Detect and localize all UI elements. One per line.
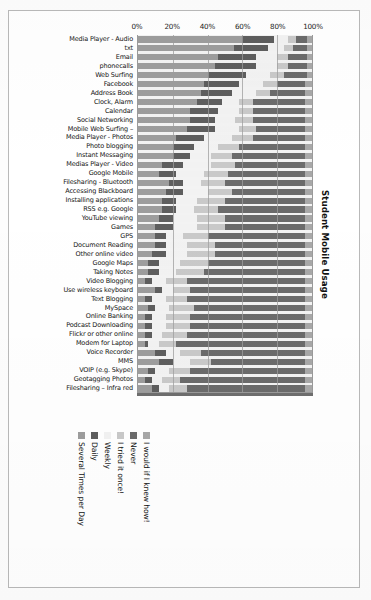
legend-item[interactable]: I would if I knew how! (142, 432, 150, 523)
category-axis-labels: Media Player - AudiotxtEmailphonecallsWe… (20, 35, 133, 393)
bar-segment (305, 206, 312, 212)
bar-segment (296, 36, 306, 42)
bar-row (138, 108, 312, 114)
bar-segment (239, 144, 305, 150)
bar-segment (225, 180, 305, 186)
bar-rows (138, 35, 312, 392)
category-label: YouTube viewing (82, 214, 133, 223)
bar-segment (305, 108, 312, 114)
bar-segment (138, 242, 155, 248)
bar-segment (166, 233, 183, 239)
legend-label: Never (129, 442, 137, 464)
chart-side-title: Student Mobile Usage (320, 190, 330, 299)
bar-segment (152, 278, 166, 284)
category-label: phonecalls (100, 62, 133, 71)
bar-segment (305, 260, 312, 266)
bar-segment (208, 189, 232, 195)
category-label: GPS (120, 232, 133, 241)
bar-segment (148, 260, 158, 266)
category-label: txt (125, 44, 134, 53)
bar-segment (215, 126, 239, 132)
bar-segment (176, 135, 204, 141)
bar-segment (166, 189, 183, 195)
bar-segment (307, 36, 312, 42)
bar-row (138, 180, 312, 186)
bar-segment (235, 117, 252, 123)
bar-segment (138, 359, 159, 365)
bar-segment (305, 385, 312, 391)
bar-row (138, 314, 312, 320)
category-label: Photo blogging (86, 142, 133, 151)
bar-segment (138, 260, 148, 266)
bar-segment (305, 180, 312, 186)
bar-segment (138, 90, 201, 96)
legend-swatch-icon (91, 432, 98, 439)
bar-segment (253, 108, 305, 114)
bar-segment (138, 63, 215, 69)
bar-segment (159, 260, 180, 266)
legend-item[interactable]: Daily (90, 432, 98, 461)
bar-segment (307, 45, 312, 51)
category-label: RSS e.g. Google (83, 205, 133, 214)
bar-row (138, 135, 312, 141)
bar-row (138, 198, 312, 204)
bar-segment (239, 99, 253, 105)
legend-item[interactable]: I tried it once! (116, 432, 124, 494)
bar-segment (173, 144, 194, 150)
bar-segment (176, 269, 204, 275)
plot-area (137, 35, 313, 393)
bar-segment (159, 359, 173, 365)
bar-row (138, 377, 312, 383)
legend-item[interactable]: Weekly (103, 432, 111, 469)
x-tick-label: 20% (164, 22, 179, 31)
bar-segment (176, 198, 197, 204)
bar-segment (187, 251, 215, 257)
bar-segment (194, 206, 218, 212)
category-label: Filesharing – Infra red (66, 384, 133, 393)
bar-row (138, 350, 312, 356)
bar-segment (176, 206, 193, 212)
bar-row (138, 189, 312, 195)
bar-segment (305, 171, 312, 177)
bar-segment (155, 287, 162, 293)
bar-segment (277, 54, 287, 60)
bar-segment (256, 63, 277, 69)
bar-segment (305, 189, 312, 195)
legend-item[interactable]: Never (129, 432, 137, 464)
bar-row (138, 36, 312, 42)
legend-item[interactable]: Several Times per Day (77, 432, 85, 526)
category-label: Accessing Blackboard (65, 187, 133, 196)
bar-segment (152, 377, 162, 383)
stacked-bar-chart: 0%20%40%60%80%100% Media Player - Audiot… (20, 22, 320, 422)
bar-segment (138, 215, 159, 221)
bar-segment (176, 171, 204, 177)
bar-segment (138, 323, 145, 329)
bar-segment (187, 278, 305, 284)
bar-segment (152, 296, 166, 302)
bar-row (138, 242, 312, 248)
bar-segment (187, 332, 305, 338)
bar-row (138, 126, 312, 132)
bar-row (138, 171, 312, 177)
bar-segment (305, 341, 312, 347)
bar-row (138, 72, 312, 78)
bar-segment (166, 314, 190, 320)
bar-segment (138, 206, 162, 212)
bar-segment (166, 278, 187, 284)
category-label: Text Blogging (91, 295, 133, 304)
bar-row (138, 385, 312, 391)
bar-segment (162, 377, 179, 383)
bar-segment (138, 36, 242, 42)
bar-segment (138, 81, 204, 87)
bar-segment (138, 341, 145, 347)
bar-segment (166, 251, 187, 257)
bar-segment (138, 368, 148, 374)
bar-segment (288, 36, 297, 42)
bar-segment (239, 108, 253, 114)
bar-segment (307, 72, 312, 78)
bar-segment (194, 305, 305, 311)
bar-segment (305, 242, 312, 248)
bar-segment (152, 323, 166, 329)
bar-segment (159, 385, 169, 391)
legend-label: Weekly (103, 442, 111, 469)
